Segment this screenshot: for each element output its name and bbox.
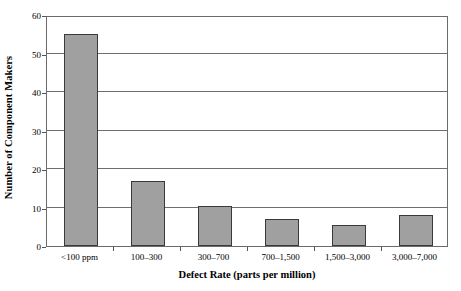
bar <box>332 225 366 246</box>
x-axis-tick-label: 700–1,500 <box>261 252 299 262</box>
y-axis-tick-label: 60 <box>32 11 41 21</box>
x-axis-tick-mark <box>381 247 382 251</box>
x-axis-tick-label: <100 ppm <box>61 252 98 262</box>
y-axis-title: Number of Component Makers <box>0 0 18 255</box>
bar <box>64 34 98 246</box>
x-axis-tick-mark <box>247 247 248 251</box>
y-axis-tick-label: 10 <box>32 204 41 214</box>
x-axis-tick-labels: <100 ppm100–300300–700700–1,5001,500–3,0… <box>46 252 448 268</box>
bar <box>198 206 232 246</box>
y-axis-tick-labels: 0102030405060 <box>18 0 44 260</box>
x-axis-tick-label: 3,000–7,000 <box>392 252 437 262</box>
y-axis-tick-label: 40 <box>32 88 41 98</box>
bar-chart: Number of Component Makers 0102030405060… <box>0 0 461 291</box>
y-axis-tick-label: 50 <box>32 50 41 60</box>
x-axis-tick-label: 300–700 <box>198 252 230 262</box>
y-axis-title-text: Number of Component Makers <box>4 56 15 199</box>
y-axis-tick-label: 20 <box>32 165 41 175</box>
x-axis-tick-label: 100–300 <box>131 252 163 262</box>
x-axis-tick-label: 1,500–3,000 <box>325 252 370 262</box>
plot-area <box>46 16 448 247</box>
x-axis-tick-mark <box>180 247 181 251</box>
bar <box>265 219 299 246</box>
y-axis-tick-label: 30 <box>32 127 41 137</box>
y-axis-tick-label: 0 <box>37 242 42 252</box>
bar <box>131 181 165 246</box>
x-axis-tick-mark <box>113 247 114 251</box>
x-axis-tick-mark <box>314 247 315 251</box>
bars-layer <box>47 17 447 246</box>
x-axis-title: Defect Rate (parts per million) <box>46 269 448 280</box>
bar <box>399 215 433 246</box>
